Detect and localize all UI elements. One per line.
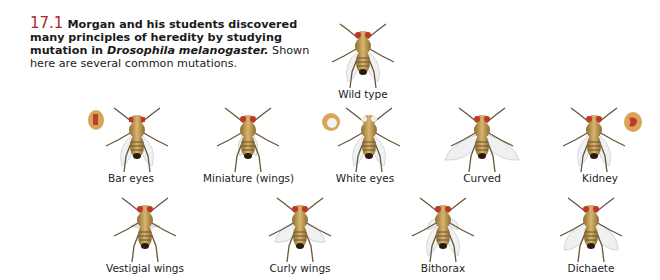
caption-species: Drosophila melanogaster. <box>107 44 269 57</box>
fly-curved: Curved <box>437 100 527 184</box>
fly-kidney: Kidney <box>555 100 645 184</box>
bithorax-fly-icon <box>398 190 488 262</box>
fly-label: Miniature (wings) <box>203 172 293 184</box>
figure-number: 17.1 <box>30 14 63 32</box>
wild-type-fly-icon <box>318 16 408 88</box>
curly-fly-icon <box>255 190 345 262</box>
bar-eye-inset-icon <box>88 110 104 130</box>
dichaete-fly-icon <box>546 190 636 262</box>
white-eye-inset-icon <box>322 113 340 131</box>
kidney-fly-icon <box>555 100 645 172</box>
fly-label: Curly wings <box>255 262 345 274</box>
white-eyes-fly-icon <box>320 100 410 172</box>
fly-miniature: Miniature (wings) <box>203 100 293 184</box>
fly-curly: Curly wings <box>255 190 345 274</box>
fly-label: Bar eyes <box>86 172 176 184</box>
fly-label: Bithorax <box>398 262 488 274</box>
fly-wild-type: Wild type <box>318 16 408 100</box>
kidney-eye-inset-icon <box>624 112 642 132</box>
fly-label: Dichaete <box>546 262 636 274</box>
fly-label: Kidney <box>555 172 645 184</box>
fly-bar-eyes: Bar eyes <box>86 100 176 184</box>
fly-label: Curved <box>437 172 527 184</box>
fly-label: Wild type <box>318 88 408 100</box>
fly-white-eyes: White eyes <box>320 100 410 184</box>
figure-caption: 17.1Morgan and his students discovered m… <box>30 17 320 70</box>
fly-label: White eyes <box>320 172 410 184</box>
curved-fly-icon <box>437 100 527 172</box>
miniature-fly-icon <box>203 100 293 172</box>
fly-label: Vestigial wings <box>100 262 190 274</box>
vestigial-fly-icon <box>100 190 190 262</box>
fly-vestigial: Vestigial wings <box>100 190 190 274</box>
fly-dichaete: Dichaete <box>546 190 636 274</box>
bar-eyes-fly-icon <box>86 100 176 172</box>
fly-bithorax: Bithorax <box>398 190 488 274</box>
